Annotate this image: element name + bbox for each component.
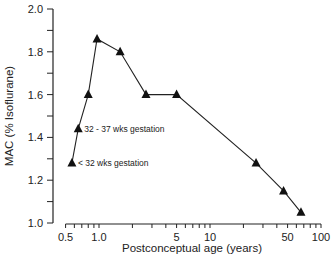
y-axis-title: MAC (% Isoflurane) bbox=[3, 66, 15, 167]
annotation-label: 32 - 37 wks gestation bbox=[84, 124, 165, 134]
y-axis: 1.01.21.41.61.82.0 bbox=[28, 3, 53, 229]
y-tick-label: 1.2 bbox=[28, 174, 43, 186]
x-axis-title: Postconceptual age (years) bbox=[122, 242, 262, 254]
x-tick-label: 50 bbox=[281, 231, 293, 243]
triangle-marker bbox=[93, 34, 102, 43]
triangle-marker bbox=[252, 158, 261, 167]
annotations: < 32 wks gestation32 - 37 wks gestation bbox=[78, 124, 165, 168]
y-tick-label: 1.4 bbox=[28, 131, 43, 143]
y-tick-label: 1.0 bbox=[28, 217, 43, 229]
y-tick-label: 1.6 bbox=[28, 89, 43, 101]
x-axis: 0.51.051050100 bbox=[58, 224, 330, 243]
y-tick-label: 2.0 bbox=[28, 3, 43, 15]
annotation-label: < 32 wks gestation bbox=[78, 158, 149, 168]
triangle-marker bbox=[172, 90, 181, 99]
triangle-marker bbox=[84, 90, 93, 99]
triangle-marker bbox=[67, 158, 76, 167]
mac-chart: 1.01.21.41.61.82.0 0.51.051050100 MAC (%… bbox=[0, 0, 332, 261]
y-tick-label: 1.8 bbox=[28, 46, 43, 58]
triangle-marker bbox=[116, 47, 125, 56]
triangle-marker bbox=[74, 124, 83, 133]
x-tick-label: 1.0 bbox=[91, 231, 106, 243]
triangle-marker bbox=[141, 90, 150, 99]
x-tick-label: 0.5 bbox=[58, 231, 73, 243]
x-tick-label: 100 bbox=[312, 231, 330, 243]
